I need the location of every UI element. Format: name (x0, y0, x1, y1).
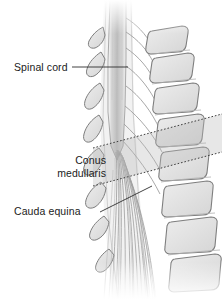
label-conus-medullaris: Conus medullaris (0, 154, 106, 179)
spine-illustration-svg (0, 0, 222, 299)
spinal-anatomy-figure: Spinal cord Conus medullaris Cauda equin… (0, 0, 222, 299)
label-conus-line2: medullaris (0, 167, 106, 180)
top-fade (84, 0, 222, 34)
label-cauda-equina: Cauda equina (14, 205, 81, 218)
label-conus-line1: Conus (0, 154, 106, 167)
label-spinal-cord: Spinal cord (14, 61, 68, 74)
bottom-fade (84, 262, 222, 299)
